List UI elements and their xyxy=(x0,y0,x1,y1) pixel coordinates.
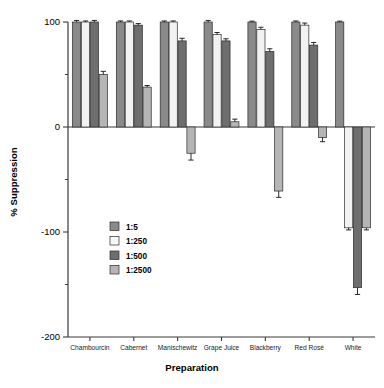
legend-swatch-1-2500 xyxy=(110,266,119,275)
bar-group xyxy=(248,21,283,197)
bar-1-500 xyxy=(353,127,361,288)
bar-1-5 xyxy=(204,22,212,127)
y-tick-label: -100 xyxy=(41,226,60,237)
bar-1-5 xyxy=(116,22,124,127)
x-tick-label: Grape Juice xyxy=(204,344,240,352)
x-tick-label: Chambourcin xyxy=(70,344,110,351)
bar-1-500 xyxy=(222,41,230,127)
bar-1-2500 xyxy=(275,127,283,191)
bar-group xyxy=(160,21,195,160)
bar-group xyxy=(116,21,151,127)
bar-group xyxy=(336,21,371,294)
chart-figure: 1000-100-200ChambourcinCabernetManischew… xyxy=(0,0,384,388)
legend-label-1-5: 1:5 xyxy=(126,223,138,232)
legend-label-1-250: 1:250 xyxy=(126,237,147,246)
bar-1-500 xyxy=(310,45,318,127)
x-tick-label: Manischewitz xyxy=(158,344,198,351)
bar-1-5 xyxy=(72,22,80,127)
bar-1-250 xyxy=(345,127,353,228)
y-tick-label: -200 xyxy=(41,331,60,342)
x-tick-label: Cabernet xyxy=(120,344,147,351)
bar-group xyxy=(72,20,107,127)
bar-1-2500 xyxy=(318,127,326,138)
y-tick-label: 100 xyxy=(44,16,60,27)
bar-1-5 xyxy=(248,22,256,127)
bar-1-5 xyxy=(160,22,168,127)
bar-1-2500 xyxy=(362,127,370,228)
bar-chart-svg: 1000-100-200ChambourcinCabernetManischew… xyxy=(0,0,384,388)
bar-group xyxy=(292,21,327,142)
legend-swatch-1-5 xyxy=(110,222,119,231)
bar-1-250 xyxy=(301,25,309,127)
bar-1-250 xyxy=(169,22,177,127)
bar-1-5 xyxy=(292,22,300,127)
bar-1-500 xyxy=(266,51,274,127)
legend-swatch-1-250 xyxy=(110,237,119,246)
y-tick-label: 0 xyxy=(55,121,60,132)
bar-1-250 xyxy=(81,22,89,127)
bar-1-2500 xyxy=(99,75,107,128)
bar-1-2500 xyxy=(187,127,195,153)
bar-1-500 xyxy=(134,25,142,127)
bar-1-250 xyxy=(257,29,265,127)
bar-1-250 xyxy=(125,22,133,127)
bar-group xyxy=(204,20,239,127)
x-tick-label: Red Rosé xyxy=(295,344,325,351)
x-tick-label: Blackberry xyxy=(250,344,282,352)
legend-label-1-500: 1:500 xyxy=(126,252,147,261)
y-axis-title: % Suppression xyxy=(8,147,19,216)
bar-1-500 xyxy=(178,41,186,127)
legend-swatch-1-500 xyxy=(110,251,119,260)
x-axis-title: Preparation xyxy=(165,362,218,373)
legend-label-1-2500: 1:2500 xyxy=(126,266,152,275)
bar-1-2500 xyxy=(231,122,239,127)
bar-1-500 xyxy=(90,22,98,127)
bar-1-2500 xyxy=(143,87,151,127)
bar-1-250 xyxy=(213,35,221,127)
bar-1-5 xyxy=(336,22,344,127)
x-tick-label: White xyxy=(345,344,362,351)
